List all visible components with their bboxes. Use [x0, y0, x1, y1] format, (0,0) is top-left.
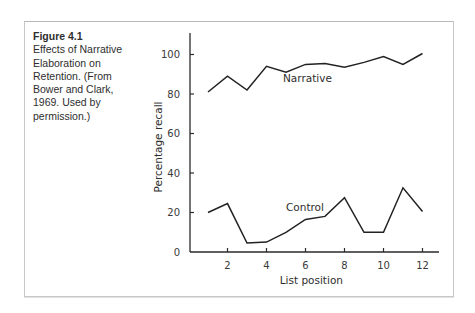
- y-tick-label: 20: [167, 207, 180, 218]
- y-tick-label: 80: [167, 89, 180, 100]
- chart-axes: 02040608010024681012: [161, 33, 439, 271]
- x-tick-label: 6: [302, 260, 308, 271]
- y-tick-label: 40: [167, 168, 180, 179]
- x-tick-label: 8: [341, 260, 347, 271]
- x-tick-label: 12: [416, 260, 429, 271]
- line-chart: 02040608010024681012 List positionPercen…: [0, 0, 475, 313]
- control-line: [208, 188, 423, 243]
- x-axis-title: List position: [280, 274, 343, 286]
- y-tick-label: 0: [174, 247, 180, 258]
- chart-labels: List positionPercentage recallNarrativeC…: [152, 72, 343, 286]
- x-tick-label: 2: [224, 260, 230, 271]
- y-axis-title: Percentage recall: [152, 102, 164, 193]
- x-tick-label: 4: [263, 260, 269, 271]
- y-tick-label: 100: [161, 49, 180, 60]
- y-tick-label: 60: [167, 128, 180, 139]
- x-tick-label: 10: [377, 260, 390, 271]
- control-series-label: Control: [286, 201, 324, 213]
- narrative-series-label: Narrative: [283, 72, 332, 84]
